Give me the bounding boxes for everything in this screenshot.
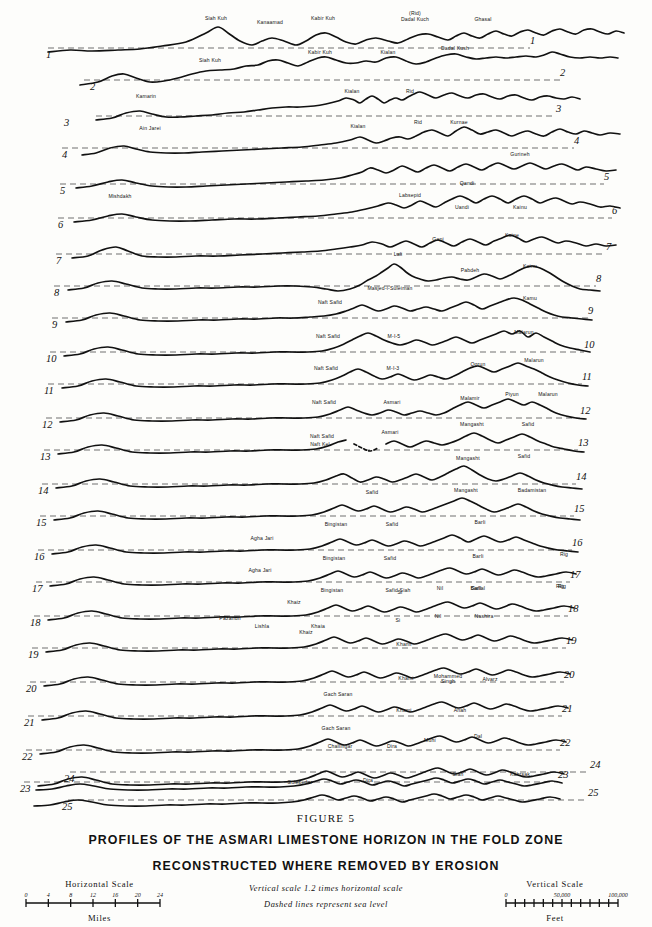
figure-number: FIGURE 5 [0, 812, 652, 824]
vertical-scale-units: Feet [466, 913, 644, 923]
peak-label: Singh [441, 678, 455, 684]
peak-label: Alvarz [482, 676, 498, 682]
peak-label: Khami [396, 641, 411, 647]
peak-label: Kanaamad [257, 19, 283, 25]
peak-label: Safid [384, 555, 397, 561]
vertical-scale-graphic: 050,000100,000 [466, 890, 644, 912]
profile-number-right: 7 [606, 241, 612, 252]
profile-number-right: 18 [568, 603, 579, 614]
peak-label: M-I-3 [387, 365, 400, 371]
profile-line [54, 498, 580, 520]
profile-number-right: 9 [588, 305, 594, 316]
profile-number-left: 10 [46, 353, 57, 364]
peak-label: Piyun [505, 391, 519, 397]
peak-label: Kainu [523, 263, 537, 269]
peak-label: Malarun [524, 357, 544, 363]
peak-label: Challingar [328, 743, 353, 749]
profile-number-left: 18 [30, 617, 41, 628]
profile-line [82, 127, 620, 155]
profile-number-left: 17 [32, 583, 43, 594]
right-profile-numbers-group: 1234567891011121314151617181920212223242… [530, 35, 618, 798]
profile-number-right: 17 [570, 569, 581, 580]
profile-number-left: 14 [38, 485, 49, 496]
peak-label: Asmari [384, 399, 401, 405]
peak-label: Pabdeh [461, 267, 480, 273]
profile-number-right: 1 [530, 35, 535, 46]
peak-label: Kahrsak [510, 771, 530, 777]
peak-label: Siah [453, 771, 464, 777]
scale-tick-label: 16 [112, 892, 118, 898]
profiles-plot: Siah KuhKanaamadKabir Kuh(Rid)Dadal Kuch… [0, 0, 652, 810]
peak-label: Kaine [505, 232, 519, 238]
peak-label: Si [398, 589, 403, 595]
scale-tick-label: 0 [505, 892, 508, 898]
profile-number-left: 22 [22, 751, 33, 762]
peak-label: Lali [394, 251, 403, 257]
horizontal-scale-units: Miles [12, 913, 187, 923]
peak-label: Kamarin [136, 93, 156, 99]
profile-number-right: 14 [576, 471, 587, 482]
scale-tick-label: 0 [25, 892, 28, 898]
scale-tick-label: 20 [135, 892, 141, 898]
scale-tick-label: 4 [47, 892, 50, 898]
peak-label: Qorun [470, 361, 485, 367]
horizontal-scale-bar: Horizontal Scale 04812162024 Miles [12, 879, 187, 923]
peak-label: Naft Safid [312, 399, 336, 405]
peak-label: Muhi [424, 737, 436, 743]
peak-label: Malamir [460, 395, 479, 401]
profile-number-left: 15 [36, 517, 47, 528]
peak-label: M-I-5 [388, 333, 401, 339]
profile-number-right: 13 [578, 437, 589, 448]
peak-label: Safid [522, 421, 535, 427]
peak-labels-group: Siah KuhKanaamadKabir Kuh(Rid)Dadal Kuch… [108, 10, 568, 785]
peak-label: Ain Jarei [139, 125, 160, 131]
profile-number-right: 4 [574, 135, 580, 146]
peak-label: Naft Safid [310, 433, 334, 439]
profile-line [40, 736, 566, 754]
profile-number-right: 3 [555, 103, 561, 114]
peak-label: Barli [474, 519, 485, 525]
peak-label: Masjed-i-Suleiman [367, 285, 412, 291]
peak-label: Kialan [344, 88, 359, 94]
profile-number-right: 22 [560, 737, 571, 748]
profile-number-left: 25 [62, 801, 73, 810]
peak-label: Dadal Kuch [401, 16, 429, 22]
profile-line [48, 27, 624, 52]
peak-label: Safid [518, 453, 531, 459]
figure-caption-line1: PROFILES OF THE ASMARI LIMESTONE HORIZON… [0, 833, 652, 847]
profile-line [46, 634, 572, 652]
vertical-scale-bar: Vertical Scale 050,000100,000 Feet [466, 879, 644, 923]
profile-number-left: 13 [40, 451, 51, 462]
peak-label: Agha Jari [250, 535, 273, 541]
peak-label: Khami [396, 707, 411, 713]
peak-label: Siah Kuh [205, 15, 227, 21]
scale-tick-label: 8 [69, 892, 72, 898]
peak-label: Nil [437, 585, 443, 591]
profile-number-left: 4 [62, 149, 68, 160]
peak-label: Dal [474, 733, 482, 739]
peak-label: Badamistan [518, 487, 547, 493]
peak-label: Mangasht [456, 455, 480, 461]
horizontal-scale-title: Horizontal Scale [12, 879, 187, 889]
profile-number-right: 16 [572, 537, 583, 548]
scale-tick-label: 24 [157, 892, 163, 898]
peak-label: Sulebedar [288, 779, 313, 785]
profile-number-right: 6 [612, 205, 618, 216]
profile-number-right: 19 [566, 635, 577, 646]
profile-number-right: 5 [604, 171, 609, 182]
peak-label: Khami [398, 675, 413, 681]
profile-number-left: 20 [26, 683, 37, 694]
peak-label: Khaiz [299, 629, 313, 635]
peak-label: Kamu [523, 295, 537, 301]
scale-tick-label: 12 [90, 892, 96, 898]
profile-number-right: 23 [558, 769, 569, 780]
profile-number-right: 8 [596, 273, 602, 284]
profile-number-right: 2 [560, 67, 566, 78]
peak-label: Qandi [460, 180, 475, 186]
peak-label: Bingistan [323, 555, 346, 561]
peak-label: Malarun [514, 329, 534, 335]
peak-label: Safid [386, 521, 399, 527]
peak-label: Kabir Kuh [308, 49, 332, 55]
peak-label: Mangasht [460, 421, 484, 427]
peak-label: Naft Safid [316, 333, 340, 339]
